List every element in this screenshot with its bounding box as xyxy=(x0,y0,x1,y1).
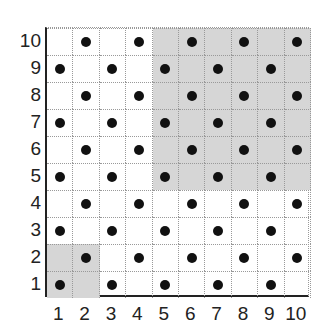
grid-cell xyxy=(232,244,258,271)
grid-cell xyxy=(205,244,231,271)
grid-cell xyxy=(153,82,179,109)
grid-cell xyxy=(285,271,311,298)
grid-cell xyxy=(153,217,179,244)
dot-marker xyxy=(107,64,117,74)
dot-marker xyxy=(292,145,302,155)
grid-cell xyxy=(153,271,179,298)
grid-cell xyxy=(126,136,152,163)
dot-marker xyxy=(134,91,144,101)
y-axis-label: 7 xyxy=(7,111,41,133)
y-axis-label: 5 xyxy=(7,165,41,187)
grid-cell xyxy=(73,109,99,136)
grid-cell xyxy=(47,136,73,163)
grid-cell xyxy=(205,136,231,163)
grid-cell xyxy=(153,28,179,55)
y-axis-label: 4 xyxy=(7,192,41,214)
grid-cell xyxy=(232,190,258,217)
grid-cell xyxy=(179,190,205,217)
grid-cell xyxy=(258,28,284,55)
grid-cell xyxy=(205,190,231,217)
grid-cell xyxy=(100,55,126,82)
grid-cell xyxy=(126,109,152,136)
x-axis-label: 1 xyxy=(45,303,71,325)
grid-cell xyxy=(47,190,73,217)
grid-cell xyxy=(73,217,99,244)
grid-cell xyxy=(100,190,126,217)
dot-marker xyxy=(239,37,249,47)
x-axis-label: 4 xyxy=(124,303,150,325)
grid-cell xyxy=(232,271,258,298)
dot-marker xyxy=(134,199,144,209)
dot-marker xyxy=(160,118,170,128)
x-axis-label: 9 xyxy=(256,303,282,325)
grid-cell xyxy=(47,109,73,136)
grid-cell xyxy=(47,244,73,271)
grid-cell xyxy=(47,217,73,244)
grid-cell xyxy=(232,136,258,163)
grid-cell xyxy=(47,271,73,298)
grid-cell xyxy=(258,55,284,82)
dot-marker xyxy=(107,118,117,128)
grid-cell xyxy=(73,136,99,163)
grid-cell xyxy=(258,82,284,109)
grid xyxy=(45,27,309,297)
grid-cell xyxy=(258,163,284,190)
x-axis-label: 2 xyxy=(72,303,98,325)
grid-cell xyxy=(232,163,258,190)
grid-cell xyxy=(205,82,231,109)
grid-cell xyxy=(153,163,179,190)
dot-marker xyxy=(213,226,223,236)
grid-cell xyxy=(205,109,231,136)
grid-cell xyxy=(285,82,311,109)
dot-marker xyxy=(187,145,197,155)
grid-cell xyxy=(126,28,152,55)
dot-marker xyxy=(239,253,249,263)
dot-marker xyxy=(81,91,91,101)
dot-marker xyxy=(187,199,197,209)
dot-marker xyxy=(160,280,170,290)
grid-cell xyxy=(285,163,311,190)
x-axis-label: 3 xyxy=(98,303,124,325)
x-axis-label: 6 xyxy=(177,303,203,325)
dot-marker xyxy=(81,253,91,263)
grid-cell xyxy=(100,271,126,298)
grid-cell xyxy=(179,163,205,190)
y-axis-label: 1 xyxy=(7,273,41,295)
dot-marker xyxy=(160,226,170,236)
x-axis-label: 10 xyxy=(283,303,309,325)
grid-cell xyxy=(179,136,205,163)
dot-marker xyxy=(187,253,197,263)
grid-cell xyxy=(126,55,152,82)
dot-marker xyxy=(107,280,117,290)
grid-cell xyxy=(258,271,284,298)
grid-cell xyxy=(232,28,258,55)
grid-cell xyxy=(232,82,258,109)
grid-cell xyxy=(179,55,205,82)
grid-cell xyxy=(73,190,99,217)
dot-marker xyxy=(81,37,91,47)
x-axis-label: 5 xyxy=(151,303,177,325)
y-axis-label: 10 xyxy=(7,30,41,52)
grid-cell xyxy=(100,28,126,55)
y-axis-label: 9 xyxy=(7,57,41,79)
dot-marker xyxy=(239,91,249,101)
grid-cell xyxy=(205,163,231,190)
grid-cell xyxy=(179,244,205,271)
grid-cell xyxy=(258,244,284,271)
grid-cell xyxy=(285,55,311,82)
dot-marker xyxy=(187,91,197,101)
dot-marker xyxy=(239,199,249,209)
y-axis-label: 2 xyxy=(7,246,41,268)
grid-cell xyxy=(285,217,311,244)
grid-cell xyxy=(73,271,99,298)
grid-cell xyxy=(126,163,152,190)
grid-cell xyxy=(47,163,73,190)
dot-marker xyxy=(81,145,91,155)
grid-cell xyxy=(73,244,99,271)
grid-cell xyxy=(258,190,284,217)
dot-marker xyxy=(292,253,302,263)
dot-marker xyxy=(107,172,117,182)
grid-cell xyxy=(100,109,126,136)
dot-marker xyxy=(213,118,223,128)
grid-cell xyxy=(100,217,126,244)
